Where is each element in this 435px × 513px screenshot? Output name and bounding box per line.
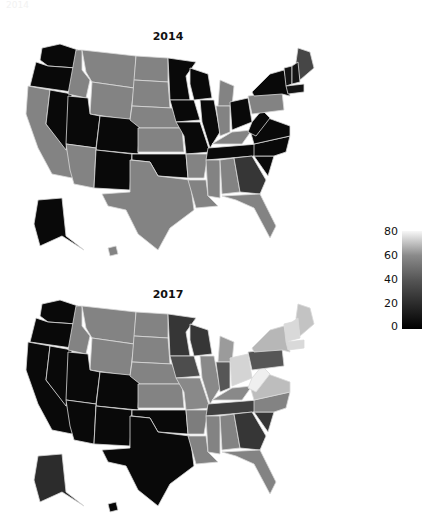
state-wi	[190, 68, 212, 100]
us-choropleth-2017	[0, 298, 380, 513]
state-ma	[286, 84, 304, 94]
corner-label: 2014	[6, 0, 29, 10]
state-ak	[34, 454, 84, 506]
colorbar-tick-20: 20	[378, 297, 398, 310]
state-oh	[230, 354, 252, 386]
state-wi	[190, 324, 212, 356]
state-hi	[108, 246, 118, 256]
state-ma	[286, 340, 304, 350]
state-wy	[90, 338, 134, 376]
state-fl	[222, 194, 276, 238]
colorbar	[402, 231, 422, 329]
colorbar-tick-0: 0	[378, 320, 398, 333]
state-ks	[138, 384, 184, 408]
state-sd	[132, 80, 170, 108]
state-sd	[132, 336, 170, 364]
state-mt	[82, 306, 136, 344]
colorbar-tick-80: 80	[378, 225, 398, 238]
state-ar	[186, 410, 208, 434]
state-ms	[206, 160, 220, 198]
state-ms	[206, 416, 220, 454]
state-nd	[134, 56, 168, 82]
state-nm	[94, 406, 132, 446]
state-ks	[138, 128, 184, 152]
state-wa	[40, 44, 78, 68]
state-fl	[222, 450, 276, 494]
colorbar-tick-40: 40	[378, 273, 398, 286]
state-az	[66, 400, 96, 444]
state-nd	[134, 312, 168, 338]
state-az	[66, 144, 96, 188]
state-wy	[90, 82, 134, 120]
state-oh	[230, 98, 252, 130]
colorbar-tick-60: 60	[378, 249, 398, 262]
state-wa	[40, 300, 78, 324]
state-nm	[94, 150, 132, 190]
state-mt	[82, 50, 136, 88]
state-hi	[108, 502, 118, 512]
us-choropleth-2014	[0, 40, 380, 280]
state-ar	[186, 154, 208, 178]
state-ak	[34, 198, 84, 250]
